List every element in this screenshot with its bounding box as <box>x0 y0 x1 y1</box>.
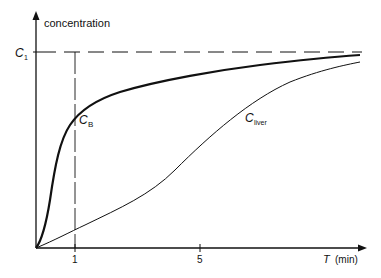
x-tick-label-1: 1 <box>72 254 78 265</box>
c-b-label: C <box>79 113 88 127</box>
x-axis-arrow-icon <box>358 245 367 252</box>
c1-label-subscript: 1 <box>24 54 28 61</box>
c-liver-label: C <box>245 111 254 125</box>
series-c-liver-curve <box>36 62 360 248</box>
y-axis-label: concentration <box>44 17 110 29</box>
x-axis-label-var: T <box>323 253 331 265</box>
c1-label: C <box>15 46 24 60</box>
x-tick-label-5: 5 <box>197 254 203 265</box>
concentration-time-chart: concentration C 1 C B C liver 1 5 T (min… <box>0 0 381 278</box>
x-axis-label-unit: (min) <box>335 254 358 265</box>
y-axis-arrow-icon <box>33 11 40 20</box>
c-liver-label-subscript: liver <box>254 119 268 126</box>
series-c-b-curve <box>36 55 360 248</box>
c-b-label-subscript: B <box>88 120 93 129</box>
